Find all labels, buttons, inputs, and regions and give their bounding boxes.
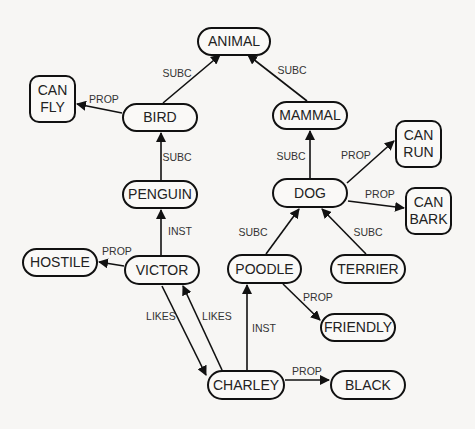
node-poodle: POODLE (227, 254, 302, 284)
node-black: BLACK (330, 370, 406, 400)
node-mammal: MAMMAL (272, 101, 348, 130)
edge-arrow-bird-to-canfly (77, 104, 122, 113)
edge-arrow-victor-to-charley (162, 286, 206, 375)
edge-arrow-dog-to-canbark (348, 201, 404, 208)
edge-label-dog-to-canrun: PROP (341, 149, 371, 161)
edge-arrow-charley-to-victor (183, 286, 222, 370)
node-charley: CHARLEY (207, 370, 285, 400)
node-friendly: FRIENDLY (320, 313, 396, 342)
edge-label-penguin-to-bird: SUBC (162, 151, 191, 163)
edge-label-victor-to-penguin: INST (168, 225, 192, 237)
diagram-canvas (0, 0, 475, 429)
edge-arrow-poodle-to-dog (266, 209, 299, 254)
edge-label-bird-to-animal: SUBC (162, 67, 191, 79)
node-bird: BIRD (122, 103, 198, 132)
edge-arrow-bird-to-animal (163, 55, 220, 103)
edge-label-charley-to-poodle: INST (252, 322, 276, 334)
node-canfly: CAN FLY (29, 75, 76, 123)
node-penguin: PENGUIN (122, 180, 198, 209)
edge-label-bird-to-canfly: PROP (89, 93, 119, 105)
edge-label-mammal-to-animal: SUBC (277, 64, 306, 76)
edge-label-dog-to-mammal: SUBC (276, 150, 305, 162)
edge-label-charley-to-victor: LIKES (202, 310, 232, 322)
edge-label-victor-to-charley: LIKES (146, 310, 176, 322)
node-animal: ANIMAL (197, 27, 271, 56)
node-terrier: TERRIER (330, 254, 406, 284)
edge-label-poodle-to-friendly: PROP (303, 291, 333, 303)
edge-label-dog-to-canbark: PROP (365, 188, 395, 200)
node-hostile: HOSTILE (22, 248, 98, 277)
node-canrun: CAN RUN (395, 120, 442, 168)
node-victor: VICTOR (124, 255, 200, 285)
node-dog: DOG (272, 178, 348, 208)
edge-label-victor-to-hostile: PROP (102, 245, 132, 257)
edge-arrow-mammal-to-animal (248, 55, 307, 101)
edge-label-poodle-to-dog: SUBC (238, 226, 267, 238)
edge-arrow-dog-to-canrun (347, 141, 394, 183)
edge-label-terrier-to-dog: SUBC (353, 226, 382, 238)
edge-arrow-victor-to-hostile (99, 262, 124, 266)
node-canbark: CAN BARK (405, 187, 452, 235)
edge-label-charley-to-black: PROP (292, 365, 322, 377)
